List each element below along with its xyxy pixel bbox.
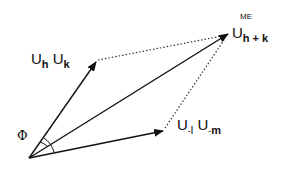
vector-arrow-u-hk bbox=[29, 62, 96, 158]
label-superscript-me: ME bbox=[240, 12, 252, 21]
vector-diagram: Uh Uk ME Uh + k U-l U-m Φ bbox=[0, 0, 287, 169]
label-u-sum: Uh + k bbox=[232, 24, 268, 41]
angle-arc-inner bbox=[40, 142, 47, 146]
dotted-line-right bbox=[165, 40, 224, 128]
vector-arrow-u-lm bbox=[29, 131, 163, 158]
angle-label-phi: Φ bbox=[17, 128, 28, 143]
dotted-line-top bbox=[98, 36, 222, 60]
label-u-lm: U-l U-m bbox=[177, 116, 221, 133]
label-u-hk: Uh Uk bbox=[31, 50, 70, 67]
